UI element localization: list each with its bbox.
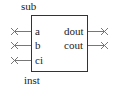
output-port-dout[interactable]: dout — [64, 26, 84, 37]
input-port-ci[interactable]: ci — [35, 55, 43, 66]
output-port-cout[interactable]: cout — [64, 40, 83, 51]
port-wires — [0, 0, 116, 93]
instance-name-label: inst — [24, 75, 40, 86]
input-port-b[interactable]: b — [35, 40, 41, 51]
input-port-a[interactable]: a — [35, 26, 40, 37]
